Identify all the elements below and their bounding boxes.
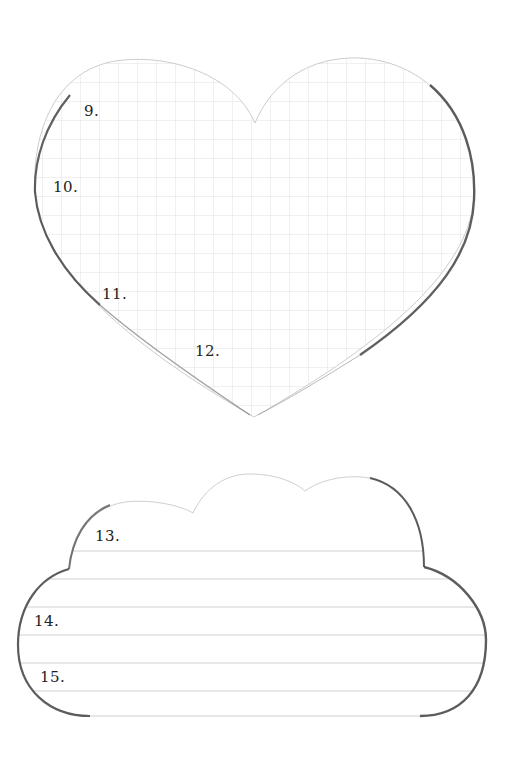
heart-label-9: 9.	[84, 102, 99, 120]
heart-label-12: 12.	[195, 342, 220, 360]
cloud-shape	[0, 474, 516, 716]
heart-label-10: 10.	[53, 178, 78, 196]
worksheet-canvas	[0, 0, 516, 771]
cloud-label-13: 13.	[95, 527, 120, 545]
cloud-label-15: 15.	[40, 668, 65, 686]
heart-label-11: 11.	[102, 285, 127, 303]
cloud-label-14: 14.	[34, 612, 59, 630]
heart-shape	[0, 0, 516, 450]
